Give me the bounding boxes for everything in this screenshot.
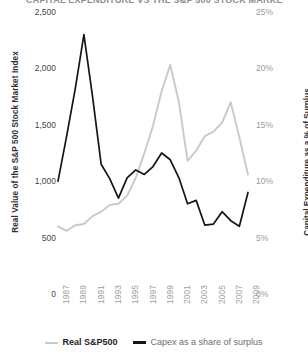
y-axis-right-title: Capital Expenditure as a % of Surplus: [303, 0, 308, 72]
y-axis-right-tick: 5%: [256, 233, 286, 243]
series-svg: [58, 12, 248, 294]
y-axis-right-tick: 20%: [256, 63, 286, 73]
legend-item-capex: Capex as a share of surplus: [133, 338, 262, 347]
line-capex-share: [58, 35, 248, 227]
legend-label-sp500: Real S&P500: [62, 338, 117, 347]
plot-area: [58, 12, 248, 294]
y-axis-left-title: Real Value of the S&P 500 Stock Market I…: [0, 0, 4, 52]
legend-swatch-icon-sp500: [45, 342, 58, 344]
chart-legend: Real S&P500 Capex as a share of surplus: [0, 338, 308, 347]
y-axis-right-tick: 25%: [256, 7, 286, 17]
y-axis-right-tick: 10%: [256, 176, 286, 186]
legend-item-real-sp500: Real S&P500: [45, 338, 117, 347]
line-real-sp500: [58, 65, 248, 231]
legend-swatch-icon-capex: [133, 341, 146, 343]
y-axis-left-tick: 0: [10, 289, 56, 299]
chart-container: CAPITAL EXPENDITURE VS THE S&P 500 STOCK…: [0, 0, 308, 360]
chart-title: CAPITAL EXPENDITURE VS THE S&P 500 STOCK…: [26, 0, 284, 4]
y-axis-right-tick: 15%: [256, 120, 286, 130]
x-axis-tick: 2009: [251, 285, 261, 304]
legend-label-capex: Capex as a share of surplus: [150, 338, 262, 347]
y-axis-left-title-text: Real Value of the S&P 500 Stock Market I…: [11, 42, 20, 242]
y-axis-right-title-text: Capital Expenditure as a % of Surplus: [303, 72, 308, 252]
y-axis-left-tick: 2,500: [10, 7, 56, 17]
